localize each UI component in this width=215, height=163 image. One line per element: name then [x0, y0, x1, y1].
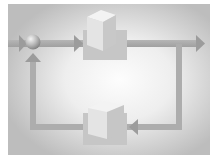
summing-junction-sphere-icon [26, 35, 41, 50]
feedback-block [83, 101, 127, 145]
feedback-loop-diagram [0, 0, 215, 163]
feedback-left-line [30, 60, 36, 130]
feedback-cube-left [88, 108, 107, 139]
feedback-right-line [176, 44, 182, 130]
diagram-svg [0, 0, 215, 163]
